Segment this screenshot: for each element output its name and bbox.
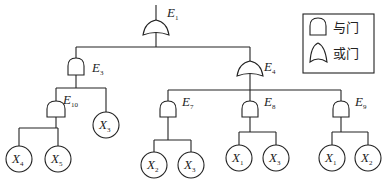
and-gate-legend-icon [310,18,326,35]
basic-event-X4: X4 [6,146,32,172]
basic-event-X2-a: X2 [141,152,167,178]
and-gate-E7 [160,101,176,117]
label-E10: E10 [62,92,78,109]
label-E1: E1 [166,5,179,22]
label-E8: E8 [263,94,276,111]
basic-event-X3-a: X3 [93,112,119,138]
or-gate-E4 [237,61,263,76]
or-gate-E1 [143,20,169,35]
basic-event-X3-c: X3 [263,145,289,171]
fault-tree-diagram: E1 E3 E4 E10 E7 E8 E9 X4 X5 X3 X2 [0,0,385,189]
basic-event-X1-a: X1 [226,145,252,171]
label-E9: E9 [354,94,367,111]
basic-event-X3-b: X3 [178,152,204,178]
basic-event-X2-b: X2 [355,145,381,171]
basic-event-X5: X5 [45,146,71,172]
legend: 与门 或门 [303,14,374,73]
and-gate-E9 [333,101,349,117]
label-E4: E4 [263,59,276,76]
legend-and-label: 与门 [333,20,359,35]
and-gate-E3 [68,58,84,75]
and-gate-E8 [242,101,258,117]
legend-or-label: 或门 [333,46,359,61]
basic-event-X1-b: X1 [319,145,345,171]
label-E3: E3 [91,60,104,77]
label-E7: E7 [181,94,194,111]
